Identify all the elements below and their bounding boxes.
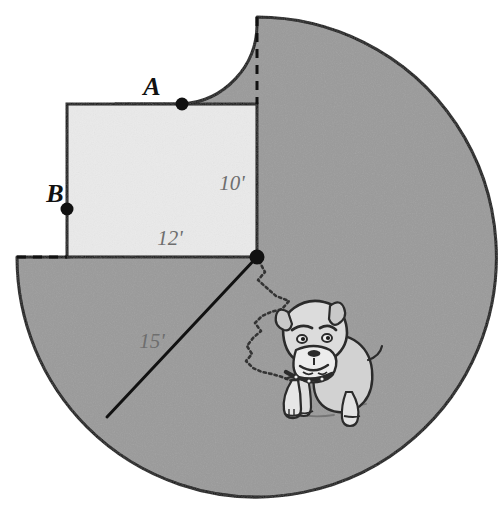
diagram-canvas: A B 10' 12' 15'	[0, 0, 503, 508]
anchor-dot-icon	[250, 250, 265, 265]
tether-length-label: 15'	[139, 329, 165, 353]
point-a-label: A	[141, 72, 160, 101]
vertex-dot-icon-a	[176, 98, 189, 111]
point-b-label: B	[45, 179, 63, 208]
right-side-dimension-label: 10'	[219, 171, 245, 195]
tether-geometry-figure: A B 10' 12' 15'	[0, 0, 503, 508]
bottom-side-dimension-label: 12'	[157, 226, 183, 250]
